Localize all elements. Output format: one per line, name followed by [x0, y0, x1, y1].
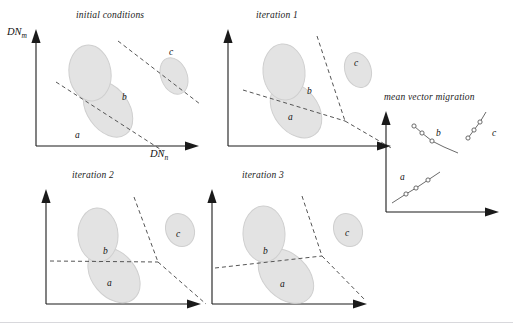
cluster-ellipses [242, 205, 368, 314]
cluster-ellipse-c [340, 49, 376, 91]
x-axis-label-text: DN [150, 148, 165, 159]
cluster-label-c: c [169, 47, 173, 57]
migration-marker [414, 186, 418, 190]
y-axis-label: DNm [7, 26, 27, 40]
bc-boundary [118, 41, 200, 104]
y-axis-arrowhead [41, 189, 50, 203]
migration-track-c [466, 112, 486, 140]
migration-label-b: b [436, 128, 441, 138]
bc-boundary [134, 197, 158, 262]
cluster-label-a: a [75, 130, 80, 140]
ac-boundary [322, 256, 366, 301]
cluster-label-a: a [280, 279, 285, 289]
y-axis-arrowhead [31, 29, 40, 43]
y-axis-label-text: DN [7, 26, 22, 37]
panel-plot [18, 6, 228, 166]
x-axis-arrowhead [353, 299, 367, 308]
panel-plot [196, 168, 396, 326]
migration-track-b [412, 124, 458, 153]
cluster-label-c: c [345, 228, 349, 238]
cluster-label-c: c [354, 58, 358, 68]
migration-label-a: a [400, 172, 405, 182]
bc-boundary [317, 36, 345, 121]
panel-plot [372, 90, 512, 230]
cluster-label-b: b [263, 246, 268, 256]
migration-marker [404, 192, 408, 196]
x-axis-label-sub: n [165, 153, 169, 162]
cluster-ellipses [77, 207, 200, 313]
cluster-ellipses [260, 42, 376, 148]
migration-marker [472, 128, 476, 132]
cluster-label-a: a [288, 112, 293, 122]
cluster-ellipse-c [155, 54, 193, 99]
panel-title: iteration 2 [72, 170, 114, 180]
y-axis-arrowhead [381, 111, 390, 125]
bc-boundary [302, 196, 322, 256]
cluster-label-c: c [176, 229, 180, 239]
y-axis-label-sub: m [22, 31, 27, 40]
panel-iteration-3: iteration 3 a b c [196, 168, 396, 326]
x-axis-arrowhead [485, 207, 499, 216]
migration-marker [426, 178, 430, 182]
bottom-rule [0, 322, 513, 323]
figure-canvas: initial conditions DNm DNn [0, 0, 513, 329]
y-axis-arrowhead [207, 189, 216, 203]
migration-marker [466, 136, 470, 140]
panel-title: iteration 1 [256, 10, 298, 20]
migration-marker [420, 131, 424, 135]
migration-marker [430, 139, 434, 143]
migration-marker [478, 120, 482, 124]
cluster-label-a: a [107, 278, 112, 288]
x-axis-label: DNn [150, 148, 168, 162]
cluster-label-b: b [307, 86, 312, 96]
cluster-label-b: b [103, 246, 108, 256]
y-axis-arrowhead [223, 29, 232, 43]
panel-mean-vector-migration: mean vector migration [372, 90, 512, 230]
panel-title: initial conditions [76, 10, 144, 20]
cluster-ellipses [65, 42, 193, 146]
x-axis-arrowhead [185, 141, 199, 150]
cluster-label-b: b [122, 92, 127, 102]
panel-initial-conditions: initial conditions DNm DNn [18, 6, 228, 166]
migration-label-c: c [492, 128, 496, 138]
panel-title: iteration 3 [242, 170, 284, 180]
axes [381, 111, 499, 217]
migration-marker [412, 124, 416, 128]
panel-title: mean vector migration [384, 92, 475, 102]
